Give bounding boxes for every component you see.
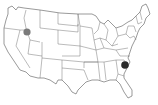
us-outline: [4, 4, 150, 98]
south-carolina-marker: [121, 61, 129, 69]
us-map: [0, 0, 158, 105]
idaho-marker: [23, 28, 30, 35]
